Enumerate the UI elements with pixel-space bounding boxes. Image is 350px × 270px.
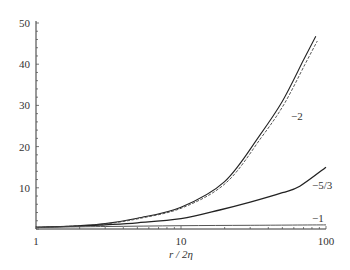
curve-minus-2-dashed [38,41,318,227]
axes: 1020304050110100r / 2η [19,17,335,260]
y-tick-label: 20 [19,141,31,153]
labels: −2−5/3−1 [291,110,333,224]
x-tick-label: 100 [318,235,335,247]
y-tick-label: 40 [19,58,31,70]
x-tick-label: 10 [176,235,188,247]
y-tick-label: 30 [19,99,31,111]
y-tick-label: 50 [19,17,31,29]
label-minus-2: −2 [291,110,303,122]
chart: 1020304050110100r / 2η −2−5/3−1 [0,0,350,270]
x-tick-label: 1 [33,235,39,247]
label-minus-5-3: −5/3 [312,179,333,191]
curve-minus-5-3 [36,167,326,227]
label-minus-1: −1 [312,212,324,224]
curve-minus-2 [36,36,316,227]
y-tick-label: 10 [19,182,31,194]
x-axis-label: r / 2η [169,248,193,260]
curves [36,36,326,227]
